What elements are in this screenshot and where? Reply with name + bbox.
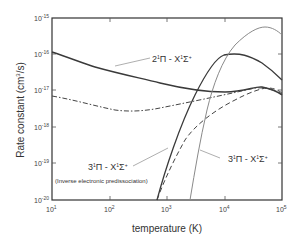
rate-constant-chart: 101 102 103 104 105 10-15 10-16 10-17 10… bbox=[0, 0, 304, 244]
curve-dash-dot bbox=[52, 88, 282, 111]
svg-text:10-15: 10-15 bbox=[34, 13, 49, 22]
svg-text:105: 105 bbox=[276, 204, 287, 213]
curve-3pi-inverse bbox=[157, 54, 282, 200]
plot-frame bbox=[52, 18, 282, 200]
label-2pi-x-sigma: 21Π - X1Σ+ bbox=[152, 54, 192, 64]
x-tick-labels: 101 102 103 104 105 bbox=[46, 204, 287, 213]
x-axis-title: temperature (K) bbox=[132, 223, 202, 234]
label-3pi-x-sigma: 31Π - X1Σ+ bbox=[228, 154, 268, 164]
curve-dashed bbox=[157, 88, 282, 200]
svg-text:103: 103 bbox=[161, 204, 172, 213]
svg-text:10-20: 10-20 bbox=[34, 195, 49, 204]
y-axis-title: Rate constant (cm3/s) bbox=[15, 62, 26, 158]
y-tick-labels: 10-15 10-16 10-17 10-18 10-19 10-20 bbox=[34, 13, 49, 204]
curves bbox=[52, 27, 282, 200]
svg-text:10-17: 10-17 bbox=[34, 85, 49, 94]
svg-text:10-18: 10-18 bbox=[34, 122, 49, 131]
label-3pi-inverse: 31Π - X1Σ+ bbox=[88, 162, 128, 172]
label-inverse-predissociation: (Inverse electronic predissociation) bbox=[55, 178, 148, 184]
svg-text:10-16: 10-16 bbox=[34, 49, 49, 58]
leader-lines bbox=[115, 58, 220, 166]
svg-text:104: 104 bbox=[219, 204, 230, 213]
svg-text:10-19: 10-19 bbox=[34, 158, 49, 167]
y-ticks bbox=[52, 54, 282, 163]
svg-text:101: 101 bbox=[46, 204, 57, 213]
curve-3pi bbox=[190, 27, 282, 200]
svg-text:102: 102 bbox=[104, 204, 115, 213]
